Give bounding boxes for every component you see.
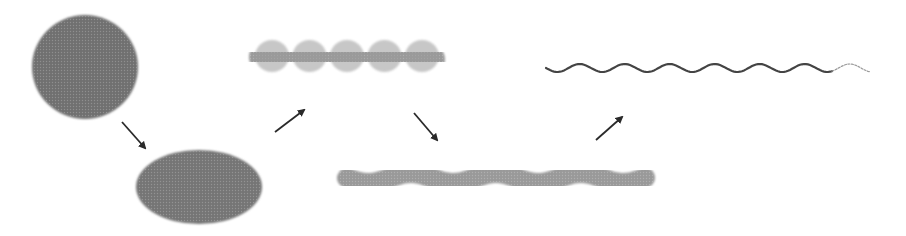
- arrow-ellipsoid-to-wavy-rod-icon: [275, 110, 304, 132]
- transformation-diagram: [0, 0, 906, 236]
- elongated-wavy-rod-stage: [347, 173, 645, 183]
- sphere-stage: [32, 15, 138, 119]
- diagram-canvas: [0, 0, 906, 236]
- arrow-sphere-to-ellipsoid-icon: [122, 122, 145, 148]
- wavy-rod-lobe: [293, 40, 327, 72]
- sphere-texture: [33, 16, 137, 118]
- thin-filament-stage: [546, 64, 870, 72]
- arrow-wavy-rod-to-elongated-rod-icon: [414, 113, 437, 140]
- thin-filament-fading-tip: [832, 64, 870, 72]
- arrow-elongated-rod-to-filament-icon: [596, 117, 622, 140]
- wavy-rod-lobe: [330, 40, 364, 72]
- ellipsoid-texture: [137, 151, 261, 223]
- wavy-rod-lobe: [255, 40, 289, 72]
- wavy-rod-lobe: [405, 40, 439, 72]
- elongated-wavy-rod-texture: [347, 173, 645, 183]
- wavy-rod-lobe: [368, 40, 402, 72]
- thin-filament-line: [546, 64, 832, 72]
- transition-arrows: [122, 110, 622, 148]
- ellipsoid-stage: [136, 150, 262, 224]
- wavy-rod-stage: [255, 40, 439, 72]
